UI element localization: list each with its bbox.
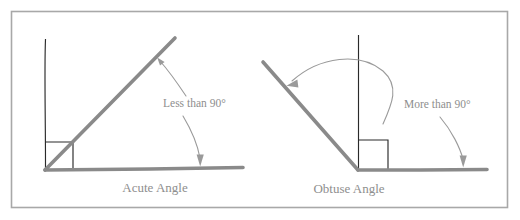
angles-diagram-canvas: Less than 90° Acute Angle More than 90° xyxy=(0,0,520,220)
acute-vertical-reference-line xyxy=(45,39,46,170)
obtuse-baseline-ray xyxy=(358,170,487,171)
obtuse-annotation-label: More than 90° xyxy=(404,98,471,110)
acute-annotation-label: Less than 90° xyxy=(163,97,226,109)
angles-figure: Less than 90° Acute Angle More than 90° xyxy=(0,0,520,220)
obtuse-caption: Obtuse Angle xyxy=(313,181,384,196)
acute-caption: Acute Angle xyxy=(122,180,188,195)
